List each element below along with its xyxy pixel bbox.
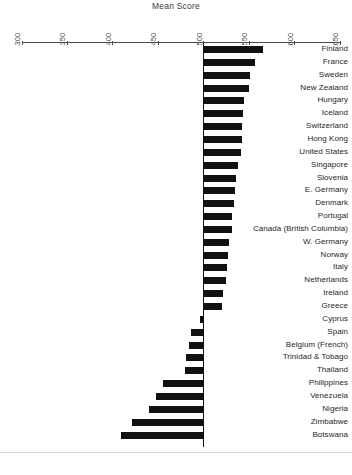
bar-row: Iceland bbox=[0, 107, 352, 120]
category-label: W. Germany bbox=[200, 236, 348, 249]
bar-row: Sweden bbox=[0, 69, 352, 82]
bar[interactable] bbox=[149, 406, 204, 413]
x-axis: 300350400450500550600650 bbox=[0, 12, 352, 42]
category-label: Slovenia bbox=[200, 172, 348, 185]
bar-row: Ireland bbox=[0, 287, 352, 300]
category-label: Canada (British Columbia) bbox=[200, 223, 348, 236]
category-label: E. Germany bbox=[200, 184, 348, 197]
bar-row: Netherlands bbox=[0, 274, 352, 287]
plot-area: FinlandFranceSwedenNew ZealandHungaryIce… bbox=[0, 43, 352, 447]
category-label: Iceland bbox=[200, 107, 348, 120]
bar[interactable] bbox=[132, 419, 204, 426]
bar-row: Belgium (French) bbox=[0, 339, 352, 352]
bar-row: Switzerland bbox=[0, 120, 352, 133]
bar[interactable] bbox=[156, 393, 204, 400]
bar-row: Nigeria bbox=[0, 403, 352, 416]
bar-row: Norway bbox=[0, 249, 352, 262]
category-label: Italy bbox=[200, 261, 348, 274]
category-label: Hong Kong bbox=[200, 133, 348, 146]
bar-row: Hong Kong bbox=[0, 133, 352, 146]
category-label: Spain bbox=[200, 326, 348, 339]
bar-row: Finland bbox=[0, 43, 352, 56]
category-label: Netherlands bbox=[200, 274, 348, 287]
bar-row: W. Germany bbox=[0, 236, 352, 249]
category-label: Cyprus bbox=[200, 313, 348, 326]
bottom-divider bbox=[0, 452, 352, 453]
bar-row: Cyprus bbox=[0, 313, 352, 326]
bar-row: Denmark bbox=[0, 197, 352, 210]
category-label: United States bbox=[200, 146, 348, 159]
bar-row: Botswana bbox=[0, 429, 352, 442]
category-label: Singapore bbox=[200, 159, 348, 172]
category-label: Sweden bbox=[200, 69, 348, 82]
category-label: Hungary bbox=[200, 94, 348, 107]
category-label: Zimbabwe bbox=[200, 416, 348, 429]
category-label: Greece bbox=[200, 300, 348, 313]
category-label: Trinidad & Tobago bbox=[200, 351, 348, 364]
bar-row: Greece bbox=[0, 300, 352, 313]
category-label: Denmark bbox=[200, 197, 348, 210]
bar-row: Singapore bbox=[0, 159, 352, 172]
category-label: Venezuela bbox=[200, 390, 348, 403]
bar-row: Hungary bbox=[0, 94, 352, 107]
category-label: Philippines bbox=[200, 377, 348, 390]
bar-row: Portugal bbox=[0, 210, 352, 223]
bar-row: Philippines bbox=[0, 377, 352, 390]
category-label: Switzerland bbox=[200, 120, 348, 133]
category-label: Finland bbox=[200, 43, 348, 56]
bar[interactable] bbox=[163, 380, 204, 387]
bar-row: Zimbabwe bbox=[0, 416, 352, 429]
bar-row: Spain bbox=[0, 326, 352, 339]
category-label: Nigeria bbox=[200, 403, 348, 416]
bar-row: Venezuela bbox=[0, 390, 352, 403]
bar-row: Italy bbox=[0, 261, 352, 274]
category-label: France bbox=[200, 56, 348, 69]
chart-title: Mean Score bbox=[0, 1, 352, 11]
category-label: Portugal bbox=[200, 210, 348, 223]
bar-row: France bbox=[0, 56, 352, 69]
bar-row: New Zealand bbox=[0, 82, 352, 95]
bar-row: E. Germany bbox=[0, 184, 352, 197]
category-label: Botswana bbox=[200, 429, 348, 442]
category-label: Belgium (French) bbox=[200, 339, 348, 352]
bar-row: Thailand bbox=[0, 364, 352, 377]
bar-row: Slovenia bbox=[0, 172, 352, 185]
bar-row: United States bbox=[0, 146, 352, 159]
category-label: Norway bbox=[200, 249, 348, 262]
bar[interactable] bbox=[121, 432, 204, 439]
chart-container: Mean Score 300350400450500550600650 Finl… bbox=[0, 0, 352, 475]
category-label: Ireland bbox=[200, 287, 348, 300]
category-label: New Zealand bbox=[200, 82, 348, 95]
bar-row: Canada (British Columbia) bbox=[0, 223, 352, 236]
bar-row: Trinidad & Tobago bbox=[0, 351, 352, 364]
category-label: Thailand bbox=[200, 364, 348, 377]
